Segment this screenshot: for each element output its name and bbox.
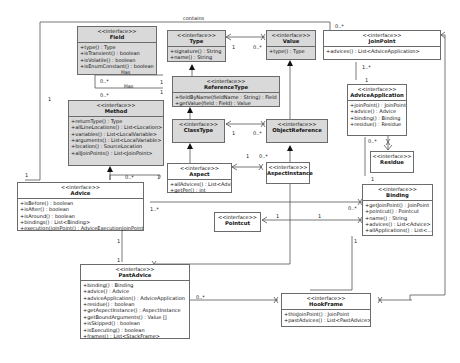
label-contains: contains [183, 15, 204, 21]
class-reference-type[interactable]: <<interface>>ReferenceType +fieldByName(… [172, 76, 280, 107]
operation: +advices() : List<AdviceApplication> [326, 48, 439, 54]
multiplicity: 1..* [362, 64, 371, 70]
multiplicity: 1 [318, 213, 321, 219]
class-binding[interactable]: <<interface>>Binding +getJoinPoint() : J… [362, 184, 433, 236]
class-join-point[interactable]: <<interface>>JoinPoint +advices() : List… [323, 30, 441, 60]
class-value[interactable]: <<interface>>Value +type() : Type [266, 30, 316, 60]
multiplicity: 1 [160, 79, 163, 85]
class-type[interactable]: <<interface>>Type +signature() : String … [167, 30, 226, 62]
class-name: Type [168, 38, 225, 44]
class-hook-frame[interactable]: <<interface>>HookFrame +thisJoinPoint() … [281, 293, 371, 327]
operation: +pastAdvices() : List<PastAdvice> [284, 317, 369, 323]
multiplicity: 1 [117, 238, 120, 244]
class-past-advice[interactable]: <<interface>>PastAdvice +binding() : Bin… [80, 264, 190, 339]
class-name: AdviceApplication [348, 92, 406, 98]
class-name: Value [267, 38, 315, 44]
class-name: PastAdvice [81, 272, 189, 278]
operation: +getAspectInstance() : AspectInstance [83, 307, 188, 313]
multiplicity: 1 [365, 77, 368, 83]
operation: +name() : String [170, 54, 224, 60]
multiplicity: 1 [371, 176, 374, 182]
multiplicity: 1 [276, 213, 279, 219]
operation: +getPer() : int [170, 187, 230, 193]
multiplicity: 0..* [125, 174, 134, 180]
class-aspect-instance[interactable]: <<interface>>AspectInstance [266, 162, 310, 184]
multiplicity: 1..* [150, 206, 159, 212]
class-name: ReferenceType [173, 84, 279, 90]
multiplicity: 0..* [100, 92, 109, 98]
class-pointcut[interactable]: <<interface>>Pointcut [214, 212, 261, 232]
class-name: AspectInstance [267, 170, 309, 176]
class-name: Field [78, 34, 156, 40]
class-residue[interactable]: <<interface>>Residue [370, 151, 414, 173]
multiplicity: 0..* [253, 130, 262, 136]
class-object-reference[interactable]: <<interface>>ObjectReference [266, 119, 328, 143]
class-name: Pointcut [215, 220, 260, 226]
operation: +execution(joinPoint() : AdviceExecution… [20, 225, 142, 231]
multiplicity: 1 [354, 238, 357, 244]
class-advice[interactable]: <<interface>>Advice +isBefore() : boolea… [17, 182, 144, 231]
label-has: Has [124, 83, 133, 89]
multiplicity: 1 [117, 257, 120, 263]
multiplicity: 0..* [368, 138, 377, 144]
class-field[interactable]: <<interface>>Field +type() : Type +isTra… [77, 26, 157, 75]
multiplicity: 1 [160, 89, 163, 95]
class-name: Residue [371, 159, 413, 165]
multiplicity: 1 [25, 172, 28, 178]
multiplicity: 1 [157, 174, 160, 180]
class-name: Binding [363, 192, 432, 198]
multiplicity: 0..* [259, 153, 268, 159]
operation: +allJoinPoints() : List<JoinPoint> [71, 150, 162, 156]
class-method[interactable]: <<interface>>Method +returnType() : Type… [68, 100, 164, 166]
operation: +frames() : List<StackFrame> [83, 333, 188, 339]
class-advice-application[interactable]: <<interface>>AdviceApplication +joinPoin… [347, 84, 407, 136]
operation: +type() : Type [269, 48, 314, 54]
multiplicity: 0..* [100, 78, 109, 84]
class-class-type[interactable]: <<interface>>ClassType [172, 119, 225, 143]
multiplicity: 1 [246, 153, 249, 159]
multiplicity: 1 [48, 96, 51, 102]
class-name: ObjectReference [267, 127, 327, 133]
multiplicity: 1 [232, 44, 235, 50]
class-name: ClassType [173, 127, 224, 133]
multiplicity: 1 [232, 130, 235, 136]
class-aspect[interactable]: <<interface>>Aspect +allAdvices() : List… [167, 163, 232, 193]
class-name: Advice [18, 190, 143, 196]
multiplicity: 0..* [348, 205, 357, 211]
operation: +isEnumConstant() : boolean [80, 63, 155, 69]
operation: +allLineLocations() : List<Location> [71, 124, 162, 130]
multiplicity: 0..* [253, 44, 262, 50]
class-name: JoinPoint [324, 38, 440, 44]
label-has: Has [121, 69, 130, 75]
operation: +residue() : Residue [350, 121, 405, 127]
multiplicity: 0..* [196, 294, 205, 300]
class-name: Method [69, 108, 163, 114]
operation: +getValue(field : Field) : Value [175, 100, 278, 106]
class-name: Aspect [168, 171, 231, 177]
class-name: HookFrame [282, 301, 370, 307]
operation: +allApplications() : List<... [365, 227, 431, 233]
multiplicity: 0..* [335, 23, 344, 29]
